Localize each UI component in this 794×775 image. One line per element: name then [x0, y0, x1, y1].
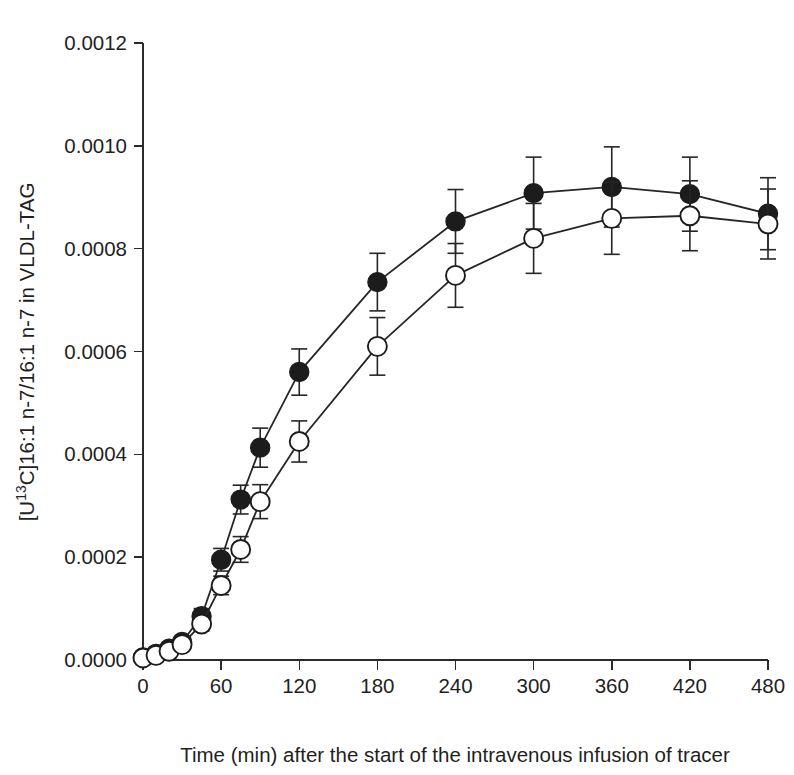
data-point-open-circle	[212, 576, 231, 595]
y-tick-label: 0.0002	[64, 545, 127, 568]
data-point-filled-circle	[290, 363, 309, 382]
x-tick-label: 300	[517, 674, 551, 697]
data-point-filled-circle	[251, 438, 270, 457]
y-tick-label: 0.0010	[64, 134, 127, 157]
x-tick-label: 60	[210, 674, 233, 697]
y-tick-label: 0.0000	[64, 648, 127, 671]
data-point-filled-circle	[212, 550, 231, 569]
y-tick-label: 0.0008	[64, 237, 127, 260]
data-point-open-circle	[173, 635, 192, 654]
data-series-group	[134, 147, 778, 668]
series-open-circles	[134, 181, 778, 668]
data-point-open-circle	[251, 492, 270, 511]
figure-container: 0.00000.00020.00040.00060.00080.00100.00…	[0, 0, 794, 775]
data-point-open-circle	[368, 337, 387, 356]
data-point-open-circle	[446, 266, 465, 285]
data-point-open-circle	[192, 615, 211, 634]
data-point-filled-circle	[446, 212, 465, 231]
x-tick-label: 240	[438, 674, 472, 697]
y-tick-label: 0.0006	[64, 340, 127, 363]
y-axis-title: [U13C]16:1 n-7/16:1 n-7 in VLDL-TAG	[13, 183, 38, 522]
y-tick-label: 0.0012	[64, 31, 127, 54]
x-tick-label: 480	[751, 674, 785, 697]
x-tick-label: 420	[673, 674, 707, 697]
y-tick-label: 0.0004	[64, 442, 127, 465]
x-tick-label: 180	[360, 674, 394, 697]
y-axis-ticks: 0.00000.00020.00040.00060.00080.00100.00…	[64, 31, 143, 671]
data-point-open-circle	[602, 209, 621, 228]
data-point-open-circle	[524, 229, 543, 248]
line-chart: 0.00000.00020.00040.00060.00080.00100.00…	[0, 0, 794, 775]
x-axis-title: Time (min) after the start of the intrav…	[180, 743, 730, 766]
x-axis-ticks: 060120180240300360420480	[137, 660, 785, 697]
data-point-filled-circle	[368, 273, 387, 292]
data-point-filled-circle	[524, 184, 543, 203]
data-point-filled-circle	[231, 490, 250, 509]
data-point-open-circle	[759, 214, 778, 233]
x-tick-label: 360	[595, 674, 629, 697]
data-point-open-circle	[290, 432, 309, 451]
data-point-open-circle	[680, 206, 699, 225]
x-tick-label: 0	[137, 674, 148, 697]
x-tick-label: 120	[282, 674, 316, 697]
data-point-open-circle	[231, 540, 250, 559]
